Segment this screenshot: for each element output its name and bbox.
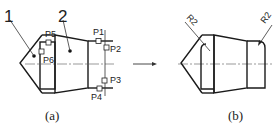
point-p3-marker [102,78,107,83]
leader-r2-right [260,25,272,43]
point-p1-marker [96,39,101,44]
point-label-p4: P4 [91,92,102,102]
caption-b: (b) [228,108,243,123]
point-label-p2: P2 [110,44,121,54]
radius-label-left: R2 [185,12,200,27]
diagram-canvas: 1 2 P1 P2 P3 P4 P5 P6 (a) R2 R2 (b) [0,0,279,129]
point-label-p1: P1 [93,27,104,37]
caption-a: (a) [45,108,59,123]
rounded-shaft-b [247,41,265,88]
right-arrow-icon [133,62,157,66]
point-p6-marker [39,49,44,54]
inner-rect-b [201,44,214,89]
figure-b: R2 R2 (b) [178,10,273,123]
point-p4-marker [97,86,102,91]
point-label-p6: P6 [43,55,54,65]
figure-a: 1 2 P1 P2 P3 P4 P5 P6 (a) [4,7,121,123]
leader-r2-left [185,22,210,51]
point-p2-marker [104,45,109,50]
leader-1 [10,20,34,56]
point-label-p3: P3 [110,75,121,85]
radius-label-right: R2 [258,10,273,25]
point-p5-marker [46,40,51,45]
part-label-1: 1 [4,7,13,26]
point-label-p5: P5 [45,29,56,39]
part-label-2: 2 [58,7,67,26]
